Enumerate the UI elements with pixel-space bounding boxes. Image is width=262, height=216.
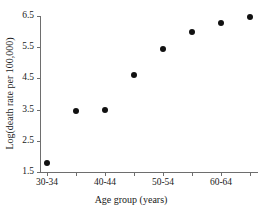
- x-axis-tick: [250, 173, 251, 176]
- x-axis-tick: [192, 173, 193, 176]
- data-point: [102, 107, 108, 113]
- x-axis-tick-label: 60-64: [210, 177, 232, 187]
- y-axis-tick: [37, 172, 40, 173]
- x-axis-line: [40, 172, 258, 173]
- x-axis-tick-label: 50-54: [152, 177, 174, 187]
- x-axis-tick: [76, 173, 77, 176]
- data-point: [131, 72, 137, 78]
- x-axis-tick: [47, 173, 48, 176]
- y-axis-tick-label: 1.5: [22, 167, 34, 177]
- x-axis-tick: [221, 173, 222, 176]
- y-axis-title: Log(death rate per 100,000): [4, 19, 15, 169]
- x-axis-tick: [105, 173, 106, 176]
- y-axis-tick-label: 4.5: [22, 73, 34, 83]
- x-axis-tick-label: 40-44: [94, 177, 116, 187]
- x-axis-tick-label: 30-34: [36, 177, 58, 187]
- plot-area: [40, 16, 258, 172]
- data-point: [247, 14, 253, 20]
- data-point: [73, 108, 79, 114]
- data-point: [189, 29, 195, 35]
- data-point: [44, 160, 50, 166]
- y-axis-tick-label: 6.5: [22, 11, 34, 21]
- x-axis-tick: [163, 173, 164, 176]
- x-axis-title: Age group (years): [0, 194, 262, 205]
- y-axis-tick-label: 3.5: [22, 105, 34, 115]
- y-axis-tick-label: 5.5: [22, 42, 34, 52]
- data-point: [160, 46, 166, 52]
- data-point: [218, 20, 224, 26]
- y-axis-tick-label: 2.5: [22, 136, 34, 146]
- x-axis-tick: [134, 173, 135, 176]
- scatter-plot-figure: 6.55.54.53.52.51.5 30-3440-4450-5460-64 …: [0, 0, 262, 216]
